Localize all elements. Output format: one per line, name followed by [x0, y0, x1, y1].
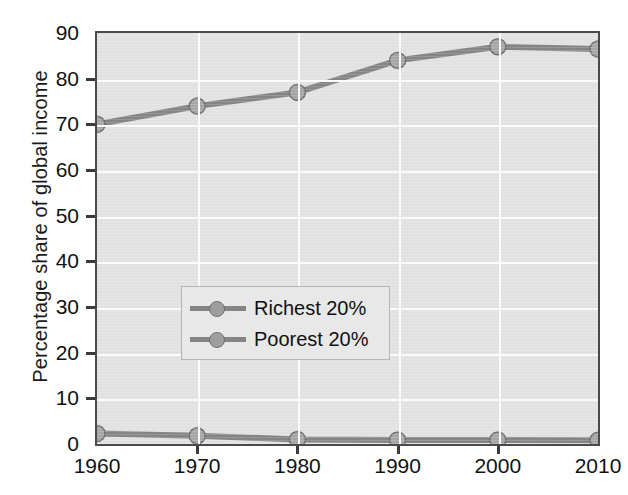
- legend-swatch-icon: [190, 299, 246, 317]
- y-tick-label: 50: [19, 205, 79, 226]
- x-tick-label: 1990: [343, 455, 453, 476]
- plot-area: [95, 31, 600, 446]
- y-tick-label: 60: [19, 159, 79, 180]
- gridline-vertical: [499, 33, 501, 444]
- legend-item-poorest[interactable]: Poorest 20%: [190, 323, 381, 354]
- data-series-layer: [97, 33, 598, 444]
- gridline-horizontal: [97, 80, 598, 82]
- gridline-horizontal: [97, 171, 598, 173]
- y-tick-label: 30: [19, 296, 79, 317]
- y-tick-mark: [86, 215, 95, 218]
- y-tick-mark: [86, 352, 95, 355]
- data-point-marker: [590, 41, 598, 57]
- y-tick-label: 40: [19, 250, 79, 271]
- legend-swatch-icon: [190, 330, 246, 348]
- y-tick-label: 0: [19, 433, 79, 454]
- y-tick-mark: [86, 397, 95, 400]
- data-point-marker: [97, 116, 105, 132]
- y-tick-label: 10: [19, 387, 79, 408]
- data-point-marker: [97, 426, 105, 442]
- gridline-horizontal: [97, 125, 598, 127]
- data-point-marker: [289, 84, 305, 100]
- y-tick-label: 90: [19, 22, 79, 43]
- y-tick-mark: [86, 78, 95, 81]
- x-tick-label: 2010: [543, 455, 628, 476]
- series-line: [97, 47, 598, 125]
- y-tick-mark: [86, 169, 95, 172]
- line-chart: Percentage share of global income 010203…: [0, 0, 628, 495]
- y-tick-mark: [86, 306, 95, 309]
- gridline-horizontal: [97, 262, 598, 264]
- data-point-marker: [590, 432, 598, 444]
- series-richest: [97, 39, 598, 133]
- data-point-marker: [390, 432, 406, 444]
- data-point-marker: [490, 39, 506, 55]
- gridline-horizontal: [97, 399, 598, 401]
- y-tick-mark: [86, 123, 95, 126]
- legend: Richest 20% Poorest 20%: [181, 286, 390, 360]
- gridline-horizontal: [97, 217, 598, 219]
- x-tick-mark: [296, 445, 299, 454]
- legend-item-richest[interactable]: Richest 20%: [190, 292, 381, 323]
- x-tick-label: 1960: [42, 455, 152, 476]
- data-point-marker: [390, 52, 406, 68]
- gridline-vertical: [298, 33, 300, 444]
- y-tick-mark: [86, 260, 95, 263]
- x-tick-mark: [497, 445, 500, 454]
- x-tick-mark: [397, 445, 400, 454]
- legend-label-poorest: Poorest 20%: [254, 329, 369, 349]
- legend-label-richest: Richest 20%: [254, 298, 366, 318]
- data-point-marker: [490, 432, 506, 444]
- x-tick-label: 1980: [242, 455, 352, 476]
- x-tick-label: 1970: [142, 455, 252, 476]
- x-tick-label: 2000: [443, 455, 553, 476]
- data-point-marker: [189, 98, 205, 114]
- y-tick-label: 80: [19, 68, 79, 89]
- y-tick-label: 20: [19, 342, 79, 363]
- y-tick-label: 70: [19, 113, 79, 134]
- series-poorest: [97, 426, 598, 445]
- x-tick-mark: [196, 445, 199, 454]
- gridline-vertical: [198, 33, 200, 444]
- series-line: [97, 434, 598, 441]
- data-point-marker: [189, 428, 205, 444]
- data-point-marker: [289, 431, 305, 444]
- gridline-vertical: [399, 33, 401, 444]
